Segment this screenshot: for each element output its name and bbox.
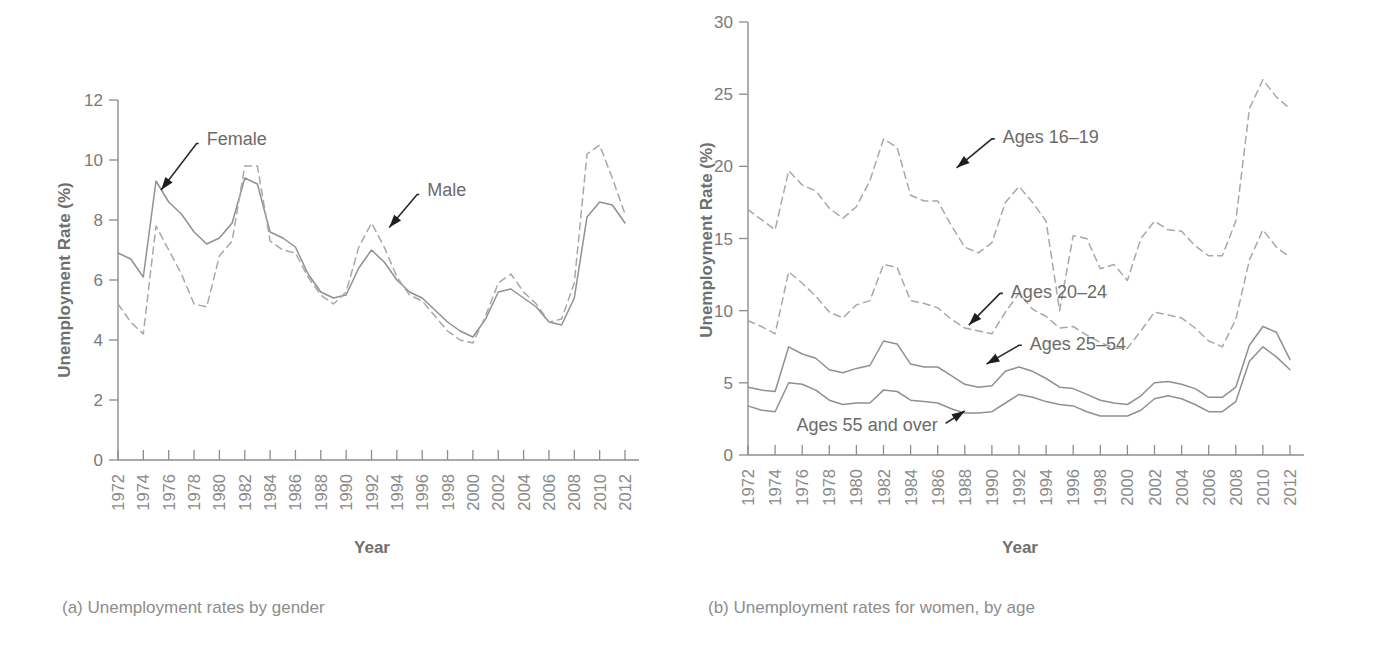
x-axis-tick-label: 1996: [1064, 469, 1082, 506]
x-axis-tick-label: 1992: [1010, 469, 1028, 506]
x-axis-tick-label: 1976: [793, 469, 811, 506]
x-axis-tick-label: 1984: [902, 469, 920, 506]
x-axis-tick-label: 1994: [388, 474, 406, 511]
annotation-label-male: Male: [427, 180, 466, 200]
series-line-ages-16-19: [748, 80, 1290, 311]
y-axis-tick-label: 8: [94, 211, 103, 230]
annotation-label-ages-16-19: Ages 16–19: [1003, 127, 1099, 147]
x-axis-title: Year: [1002, 538, 1038, 557]
annotation-ages-20-24: Ages 20–24: [969, 282, 1107, 325]
annotation-label-ages-55-and-over: Ages 55 and over: [797, 415, 938, 435]
x-axis-tick-label: 2000: [1118, 469, 1136, 506]
x-axis-tick-label: 2002: [1146, 469, 1164, 506]
figure-container: 024681012Unemployment Rate (%)1972197419…: [0, 0, 1380, 646]
x-axis-tick-label: 1978: [820, 469, 838, 506]
y-axis-tick-label: 10: [714, 302, 733, 321]
x-axis-tick-label: 2010: [1254, 469, 1272, 506]
x-axis-tick-label: 2004: [515, 474, 533, 511]
x-axis-tick-label: 1974: [134, 474, 152, 511]
x-axis-tick-label: 1998: [1091, 469, 1109, 506]
panel-b-caption: (b) Unemployment rates for women, by age: [708, 598, 1035, 618]
x-axis-tick-label: 1986: [286, 474, 304, 511]
x-axis-tick-label: 1998: [439, 474, 457, 511]
x-axis-tick-label: 1982: [236, 474, 254, 511]
chart-panel-b: 051015202530Unemployment Rate (%)1972197…: [690, 0, 1380, 646]
unemployment-by-gender-chart: 024681012Unemployment Rate (%)1972197419…: [0, 0, 690, 570]
y-axis-tick-label: 15: [714, 230, 733, 249]
x-axis-tick-label: 2002: [489, 474, 507, 511]
y-axis-title: Unemployment Rate (%): [697, 142, 716, 338]
chart-panel-a: 024681012Unemployment Rate (%)1972197419…: [0, 0, 690, 646]
x-axis-tick-label: 2012: [616, 474, 634, 511]
y-axis-tick-label: 25: [714, 85, 733, 104]
y-axis-tick-label: 20: [714, 157, 733, 176]
annotation-label-ages-20-24: Ages 20–24: [1011, 282, 1107, 302]
x-axis-tick-label: 1986: [929, 469, 947, 506]
x-axis-tick-label: 2006: [540, 474, 558, 511]
x-axis-tick-label: 2004: [1173, 469, 1191, 506]
panel-a-caption: (a) Unemployment rates by gender: [62, 598, 325, 618]
x-axis-tick-label: 2010: [591, 474, 609, 511]
y-axis-tick-label: 6: [94, 271, 103, 290]
x-axis-tick-label: 1972: [739, 469, 757, 506]
annotation-male: Male: [389, 180, 466, 228]
y-axis-tick-label: 0: [724, 446, 733, 465]
x-axis-tick-label: 2012: [1281, 469, 1299, 506]
series-line-ages-55-and-over: [748, 347, 1290, 416]
x-axis-tick-label: 1996: [413, 474, 431, 511]
x-axis-tick-label: 1978: [185, 474, 203, 511]
y-axis-tick-label: 12: [84, 91, 103, 110]
x-axis-tick-label: 1988: [312, 474, 330, 511]
annotation-ages-25-54: Ages 25–54: [986, 334, 1125, 364]
x-axis-tick-label: 1990: [983, 469, 1001, 506]
series-line-female: [118, 178, 625, 337]
x-axis-tick-label: 1974: [766, 469, 784, 506]
annotation-label-female: Female: [207, 129, 267, 149]
x-axis-tick-label: 1976: [160, 474, 178, 511]
annotation-label-ages-25-54: Ages 25–54: [1030, 334, 1126, 354]
annotation-arrowhead: [951, 411, 964, 422]
series-line-ages-25-54: [748, 327, 1290, 405]
x-axis-tick-label: 1988: [956, 469, 974, 506]
x-axis-tick-label: 1992: [363, 474, 381, 511]
x-axis-tick-label: 2000: [464, 474, 482, 511]
x-axis-tick-label: 1984: [261, 474, 279, 511]
x-axis-title: Year: [354, 538, 390, 557]
unemployment-women-by-age-chart: 051015202530Unemployment Rate (%)1972197…: [690, 0, 1380, 570]
x-axis-tick-label: 1990: [337, 474, 355, 511]
x-axis-tick-label: 2008: [1227, 469, 1245, 506]
y-axis-title: Unemployment Rate (%): [55, 182, 74, 378]
x-axis-tick-label: 1994: [1037, 469, 1055, 506]
x-axis-tick-label: 1980: [847, 469, 865, 506]
x-axis-tick-label: 1972: [109, 474, 127, 511]
x-axis-tick-label: 2008: [565, 474, 583, 511]
annotation-ages-55-and-over: Ages 55 and over: [797, 411, 965, 435]
annotation-arrowhead: [986, 354, 1000, 364]
y-axis-tick-label: 10: [84, 151, 103, 170]
annotation-ages-16-19: Ages 16–19: [957, 127, 1099, 167]
y-axis-tick-label: 4: [94, 331, 103, 350]
y-axis-tick-label: 5: [724, 374, 733, 393]
y-axis-tick-label: 2: [94, 391, 103, 410]
annotation-arrowhead: [161, 177, 172, 190]
x-axis-tick-label: 2006: [1200, 469, 1218, 506]
x-axis-tick-label: 1980: [210, 474, 228, 511]
y-axis-tick-label: 0: [94, 451, 103, 470]
y-axis-tick-label: 30: [714, 13, 733, 32]
x-axis-tick-label: 1982: [875, 469, 893, 506]
series-line-male: [118, 145, 625, 343]
